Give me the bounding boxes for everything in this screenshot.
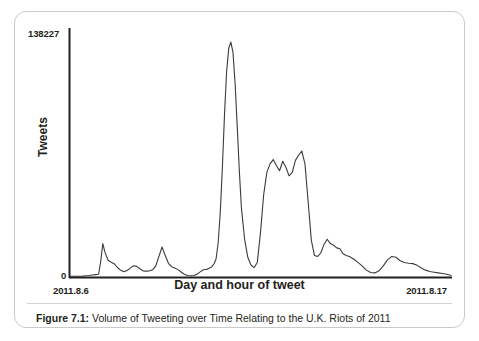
x-axis-start-label: 2011.8.6 xyxy=(53,285,89,296)
tweet-volume-line-chart xyxy=(15,12,464,300)
y-axis-title: Tweets xyxy=(36,102,50,172)
y-axis-max-tick-label: 138227 xyxy=(28,28,59,39)
figure-caption-label: Figure 7.1: xyxy=(36,312,89,324)
figure-caption: Figure 7.1: Volume of Tweeting over Time… xyxy=(36,311,451,325)
tweet-volume-series-line xyxy=(70,42,451,276)
chart-axes xyxy=(69,28,452,278)
figure-card: 138227 0 Tweets Day and hour of tweet 20… xyxy=(14,11,465,328)
caption-divider xyxy=(27,303,452,304)
chart-plot-area: 138227 0 Tweets Day and hour of tweet 20… xyxy=(15,12,464,300)
figure-caption-text: Volume of Tweeting over Time Relating to… xyxy=(89,312,390,324)
x-axis-end-label: 2011.8.17 xyxy=(406,285,447,296)
